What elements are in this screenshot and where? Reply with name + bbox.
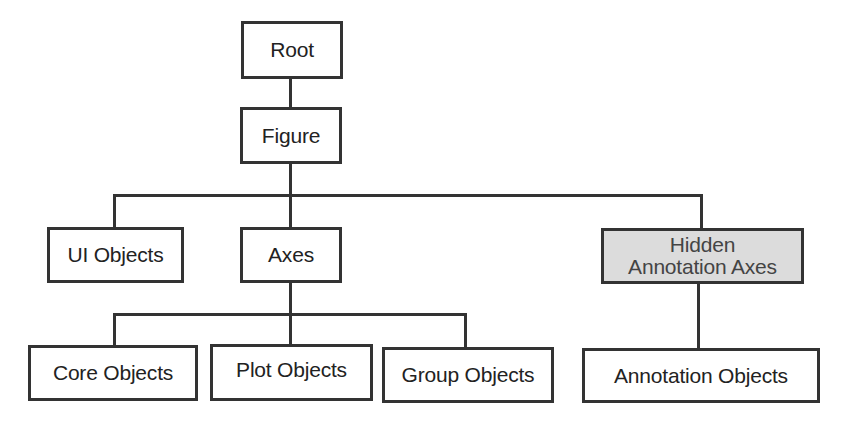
node-root: Root	[241, 21, 343, 79]
node-root-label: Root	[270, 39, 314, 61]
node-group-objects: Group Objects	[382, 347, 554, 403]
node-plot-objects-label: Plot Objects	[236, 359, 347, 381]
node-ui-objects: UI Objects	[47, 227, 184, 283]
hierarchy-diagram: Root Figure UI Objects Axes Hidden Annot…	[0, 0, 846, 428]
connector-axes-down	[289, 282, 292, 315]
connector-bus-core-objects	[113, 313, 116, 347]
node-ui-objects-label: UI Objects	[67, 244, 163, 266]
node-group-objects-label: Group Objects	[402, 364, 535, 386]
node-annotation-objects: Annotation Objects	[582, 348, 820, 403]
node-hidden-annotation-axes: Hidden Annotation Axes	[601, 228, 804, 284]
connector-bus-ui-objects	[113, 194, 116, 228]
node-figure: Figure	[240, 107, 342, 164]
connector-figure-down	[289, 163, 292, 196]
connector-root-figure	[289, 78, 292, 109]
connector-hidden-annotation	[697, 283, 700, 350]
connector-bus-group-objects	[464, 313, 467, 349]
node-axes: Axes	[240, 227, 342, 283]
node-core-objects-label: Core Objects	[53, 362, 173, 384]
connector-bus-axes	[289, 194, 292, 228]
node-plot-objects: Plot Objects	[210, 344, 373, 401]
node-hidden-annotation-axes-line2: Annotation Axes	[628, 256, 777, 278]
connector-figure-bus	[113, 194, 703, 197]
connector-bus-plot-objects	[289, 313, 292, 346]
connector-bus-hidden-axes	[700, 194, 703, 230]
node-axes-label: Axes	[268, 244, 314, 266]
node-annotation-objects-label: Annotation Objects	[614, 365, 788, 387]
node-core-objects: Core Objects	[28, 345, 198, 401]
node-figure-label: Figure	[262, 125, 320, 147]
node-hidden-annotation-axes-line1: Hidden	[670, 234, 735, 256]
